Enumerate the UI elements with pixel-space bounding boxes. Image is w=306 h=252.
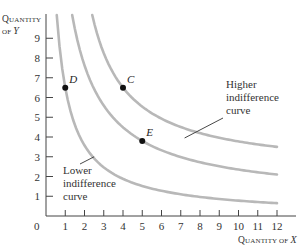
y-axis-title-line1: QUANTITY bbox=[2, 14, 41, 24]
point-c bbox=[120, 85, 126, 91]
point-e bbox=[139, 138, 145, 144]
annotation-line: curve bbox=[63, 190, 88, 202]
x-tick-label: 10 bbox=[233, 220, 245, 232]
annotation-line: Lower bbox=[63, 164, 92, 176]
annotation-pointer-line bbox=[80, 157, 94, 164]
point-label-d: D bbox=[68, 73, 77, 85]
y-tick-label: 1 bbox=[35, 190, 41, 202]
x-tick-label: 5 bbox=[140, 220, 146, 232]
annotation-line: indifference bbox=[226, 91, 279, 103]
y-title-of: OF bbox=[2, 28, 13, 36]
x-tick-label: 3 bbox=[101, 220, 107, 232]
annotation-line: Higher bbox=[226, 78, 257, 90]
y-tick-label: 6 bbox=[35, 92, 41, 104]
points-layer: DCE bbox=[62, 73, 153, 144]
y-tick-label: 3 bbox=[35, 151, 41, 163]
y-tick-label: 9 bbox=[35, 32, 41, 44]
y-tick-label: 4 bbox=[35, 131, 41, 143]
origin-label: 0 bbox=[34, 220, 40, 232]
indifference-curve-chart: 123456789101112123456789 DCE Higherindif… bbox=[0, 0, 306, 252]
annotation-line: indifference bbox=[63, 177, 116, 189]
x-title-var: X bbox=[289, 234, 297, 245]
x-tick-label: 7 bbox=[178, 220, 184, 232]
annotations-layer: HigherindifferencecurveLowerindifference… bbox=[63, 78, 279, 202]
x-tick-label: 12 bbox=[272, 220, 283, 232]
point-label-e: E bbox=[145, 126, 153, 138]
higher-curve-annotation: Higherindifferencecurve bbox=[226, 78, 279, 116]
x-tick-label: 2 bbox=[82, 220, 88, 232]
y-tick-label: 5 bbox=[35, 111, 41, 123]
y-title-rest: UANTITY bbox=[9, 16, 42, 24]
y-axis-title-line2: OF Y bbox=[2, 25, 20, 36]
y-tick-label: 2 bbox=[35, 171, 41, 183]
x-tick-label: 1 bbox=[63, 220, 69, 232]
y-tick-label: 8 bbox=[35, 52, 41, 64]
x-tick-label: 4 bbox=[120, 220, 126, 232]
x-tick-label: 8 bbox=[197, 220, 203, 232]
point-label-c: C bbox=[127, 73, 135, 85]
y-title-var: Y bbox=[13, 25, 20, 36]
annotation-line: curve bbox=[226, 104, 251, 116]
x-tick-label: 6 bbox=[159, 220, 165, 232]
point-d bbox=[62, 85, 68, 91]
x-title-rest: UANTITY OF bbox=[245, 237, 291, 245]
x-tick-label: 11 bbox=[252, 220, 263, 232]
y-tick-label: 7 bbox=[35, 72, 41, 84]
x-tick-label: 9 bbox=[217, 220, 223, 232]
x-axis-title: QUANTITY OF X bbox=[238, 234, 297, 245]
